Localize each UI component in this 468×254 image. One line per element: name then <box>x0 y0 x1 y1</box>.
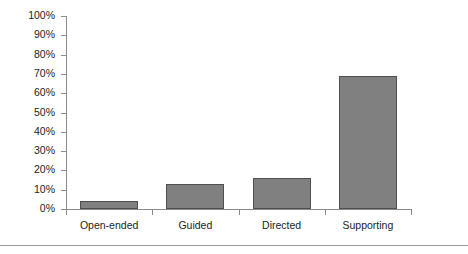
x-axis-tick <box>325 209 326 215</box>
y-axis-tick-label: 40% <box>0 125 55 138</box>
x-axis-tick <box>239 209 240 215</box>
bar-directed <box>253 178 311 209</box>
x-axis-category-label: Open-ended <box>80 218 138 232</box>
y-axis-tick-label: 80% <box>0 48 55 61</box>
y-axis-tick-label: 100% <box>0 9 55 22</box>
y-axis-tick-label: 90% <box>0 28 55 41</box>
y-axis-tick-label: 0% <box>0 202 55 215</box>
x-axis-tick <box>152 209 153 215</box>
bar-chart-figure: 100%90%80%70%60%50%40%30%20%10%0% Open-e… <box>0 0 468 254</box>
x-axis-tick <box>411 209 412 215</box>
x-axis-category-label: Guided <box>178 218 212 232</box>
x-axis-category-label: Supporting <box>342 218 393 232</box>
bar-guided <box>166 184 224 209</box>
x-axis-tick <box>66 209 67 215</box>
bars-layer <box>66 16 411 209</box>
x-axis-label-group: Open-endedGuidedDirectedSupporting <box>66 218 411 234</box>
bar-open-ended <box>80 201 138 209</box>
footer-divider <box>0 245 468 246</box>
y-axis-tick-label: 70% <box>0 67 55 80</box>
y-axis-tick-label: 60% <box>0 86 55 99</box>
y-axis-tick-label: 30% <box>0 144 55 157</box>
bar-supporting <box>339 76 397 209</box>
y-axis-tick-label: 20% <box>0 163 55 176</box>
x-axis-category-label: Directed <box>262 218 301 232</box>
y-axis-tick-label: 10% <box>0 183 55 196</box>
y-axis-tick-label: 50% <box>0 106 55 119</box>
